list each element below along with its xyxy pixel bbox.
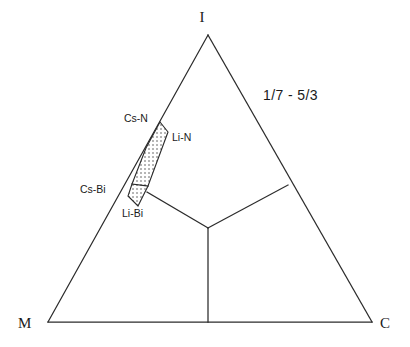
phase-label-li-n: Li-N: [172, 131, 191, 143]
internal-boundaries: [147, 185, 288, 322]
vertex-label-m: M: [18, 315, 31, 331]
ternary-diagram-svg: I M C Cs-N Li-N Cs-Bi Li-Bi 1/7 - 5/3: [0, 0, 410, 347]
phase-label-li-bi: Li-Bi: [122, 207, 143, 219]
two-phase-region-polygon: [128, 122, 168, 206]
vertex-label-i: I: [200, 9, 205, 25]
boundary-left-branch: [147, 192, 208, 228]
phase-label-cs-n: Cs-N: [124, 112, 148, 124]
phase-label-cs-bi: Cs-Bi: [80, 183, 106, 195]
ternary-diagram-canvas: I M C Cs-N Li-N Cs-Bi Li-Bi 1/7 - 5/3: [0, 0, 410, 347]
outer-triangle: [48, 35, 372, 322]
edge-apex-to-left: [48, 35, 208, 322]
vertex-label-c: C: [380, 315, 390, 331]
boundary-right-branch: [208, 185, 288, 228]
two-phase-region: [128, 122, 168, 206]
ratio-annotation: 1/7 - 5/3: [263, 87, 318, 103]
edge-apex-to-right: [208, 35, 372, 322]
